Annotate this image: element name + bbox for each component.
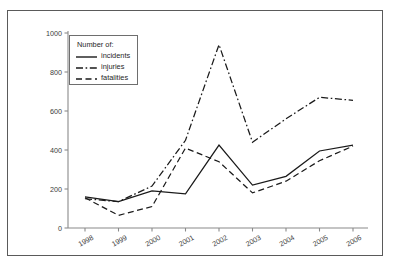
- x-tick-label: 2006: [345, 233, 363, 249]
- legend-label-injuries: injuries: [101, 62, 124, 71]
- x-tick-label: 2003: [244, 233, 262, 249]
- y-tick-label: 0: [58, 224, 62, 233]
- y-tick-label: 200: [50, 185, 62, 194]
- x-tick-label: 2004: [278, 233, 296, 249]
- x-tick-label: 1998: [77, 233, 95, 249]
- chart-figure: 02004006008001000 1998199920002001200220…: [0, 0, 393, 267]
- x-tick-label: 1999: [110, 233, 128, 249]
- y-tick-label: 600: [50, 107, 62, 116]
- legend-swatch-fatalities: [76, 78, 97, 80]
- x-axis: 199819992000200120022003200420052006: [68, 228, 368, 249]
- x-tick-label: 2001: [177, 233, 195, 249]
- x-tick-group: 199819992000200120022003200420052006: [77, 228, 363, 249]
- chart-legend: Number of: incidents injuries fatalities: [69, 35, 138, 85]
- legend-swatch-incidents: [76, 56, 97, 58]
- y-axis: 02004006008001000: [46, 29, 68, 233]
- y-tick-label: 1000: [46, 29, 62, 38]
- series-line-incidents: [85, 145, 353, 202]
- legend-swatch-injuries: [76, 67, 97, 69]
- line-chart-canvas: 02004006008001000 1998199920002001200220…: [0, 0, 393, 267]
- legend-label-fatalities: fatalities: [101, 73, 128, 82]
- x-tick-label: 2000: [144, 233, 162, 249]
- x-tick-label: 2002: [211, 233, 229, 249]
- legend-title: Number of:: [77, 40, 114, 49]
- legend-label-incidents: incidents: [101, 51, 130, 60]
- x-tick-label: 2005: [311, 233, 329, 249]
- y-tick-label: 800: [50, 68, 62, 77]
- y-tick-group: 02004006008001000: [46, 29, 68, 233]
- y-tick-label: 400: [50, 146, 62, 155]
